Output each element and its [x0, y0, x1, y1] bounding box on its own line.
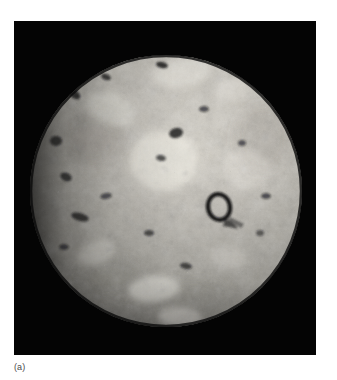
figure-panel: (a) [0, 0, 337, 380]
photograph-plate [14, 21, 316, 355]
figure-caption: (a) [14, 361, 25, 373]
moon-photograph [14, 21, 316, 355]
